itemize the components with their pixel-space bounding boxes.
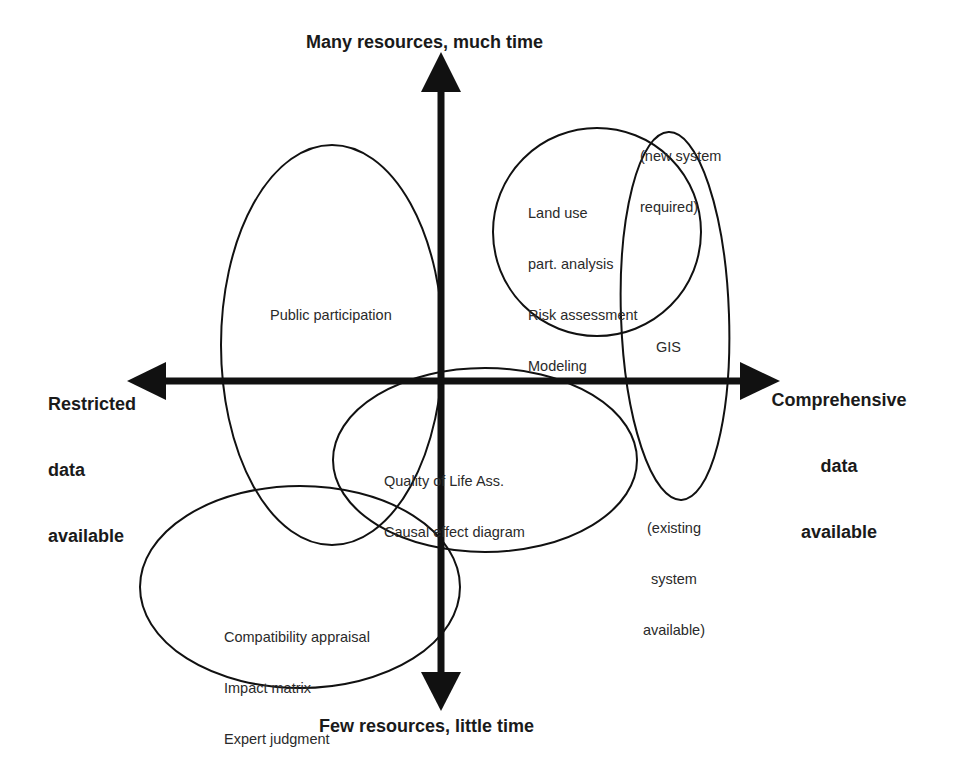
region-label-gis: GIS	[656, 339, 681, 356]
region-line: Expert judgment	[224, 731, 370, 748]
axis-label-top: Many resources, much time	[306, 31, 543, 53]
note-line: (existing	[632, 520, 716, 537]
note-line: (new system	[640, 148, 721, 165]
region-line: Impact matrix	[224, 680, 370, 697]
axis-label-left: Restricted data available	[48, 349, 136, 569]
note-line: available)	[632, 622, 716, 639]
gis-note-existing-system: (existing system available)	[632, 486, 716, 656]
axis-label-right: Comprehensive data available	[754, 345, 924, 565]
axis-label-left-line: data	[48, 459, 136, 481]
region-label-land-use: Land use part. analysis Risk assessment …	[528, 171, 638, 392]
axis-label-right-line: Comprehensive	[754, 389, 924, 411]
axis-label-left-line: available	[48, 525, 136, 547]
region-line: Risk assessment	[528, 307, 638, 324]
region-label-compatibility: Compatibility appraisal Impact matrix Ex…	[224, 595, 370, 762]
arrow-up-icon	[421, 52, 461, 92]
arrow-down-icon	[421, 672, 461, 711]
note-line: system	[632, 571, 716, 588]
note-line: required)	[640, 199, 721, 216]
axis-label-right-line: available	[754, 521, 924, 543]
axis-label-left-line: Restricted	[48, 393, 136, 415]
region-line: Land use	[528, 205, 638, 222]
region-line: Quality of Life Ass.	[384, 473, 525, 490]
region-line: Compatibility appraisal	[224, 629, 370, 646]
gis-note-new-system: (new system required)	[640, 114, 721, 233]
region-line: Causal effect diagram	[384, 524, 525, 541]
region-line: Modeling	[528, 358, 638, 375]
region-label-quality-of-life: Quality of Life Ass. Causal effect diagr…	[384, 439, 525, 558]
region-label-public-participation: Public participation	[270, 307, 392, 324]
axis-label-right-line: data	[754, 455, 924, 477]
region-line: part. analysis	[528, 256, 638, 273]
